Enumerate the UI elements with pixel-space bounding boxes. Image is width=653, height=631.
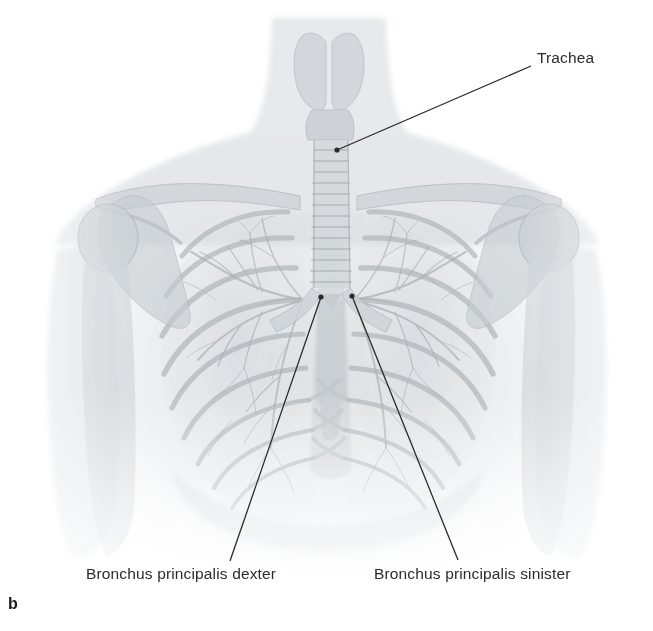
label-bronchus-principalis-sinister: Bronchus principalis sinister [374, 566, 570, 582]
label-trachea: Trachea [537, 50, 594, 66]
label-bronchus-principalis-dexter: Bronchus principalis dexter [86, 566, 276, 582]
anatomy-figure: Trachea Bronchus principalis dexter Bron… [0, 0, 653, 631]
panel-letter: b [8, 596, 18, 612]
leader-dot-trachea [334, 147, 339, 152]
leader-dot-bronchus-sinister [349, 293, 354, 298]
leader-dot-bronchus-dexter [318, 294, 323, 299]
anatomy-illustration [0, 0, 653, 631]
